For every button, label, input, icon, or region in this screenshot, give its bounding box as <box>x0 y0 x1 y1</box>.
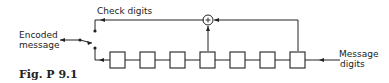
message-digits-label-line2: digits <box>340 59 365 69</box>
encoded-message-label-line2: message <box>19 40 59 50</box>
figure-caption: Fig. P 9.1 <box>19 68 78 81</box>
message-digits-label-line1: Message <box>339 49 378 59</box>
encoded-message-label-line1: Encoded <box>19 30 58 40</box>
check-digits-label: Check digits <box>97 6 152 16</box>
